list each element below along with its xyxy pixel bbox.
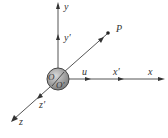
z-label: z bbox=[18, 116, 23, 127]
y-prime-label: y′ bbox=[63, 32, 71, 43]
point-p-dot-icon bbox=[106, 31, 110, 35]
x-label: x bbox=[147, 66, 153, 77]
origin-disk: O O′ bbox=[47, 68, 69, 90]
origin-label: O bbox=[48, 72, 55, 82]
position-arrow-icon bbox=[98, 37, 104, 43]
z-prime-label: z′ bbox=[38, 99, 46, 110]
point-p-label: P bbox=[115, 23, 122, 34]
reference-frames-diagram: y y′ u x′ x z′ z P O O′ bbox=[0, 0, 168, 138]
y-axis: y y′ bbox=[56, 1, 71, 68]
y-arrowhead-icon bbox=[56, 2, 60, 9]
y-prime-arrow-icon bbox=[56, 34, 60, 40]
u-arrow-icon bbox=[85, 77, 91, 81]
origin-prime-label: O′ bbox=[56, 80, 65, 90]
position-vector: P bbox=[64, 23, 122, 72]
x-axis: u x′ x bbox=[69, 66, 165, 81]
x-prime-label: x′ bbox=[112, 66, 120, 77]
x-arrowhead-icon bbox=[158, 77, 165, 81]
x-prime-arrow-icon bbox=[118, 77, 124, 81]
y-label: y bbox=[63, 1, 69, 12]
z-axis: z′ z bbox=[11, 87, 50, 127]
velocity-label: u bbox=[82, 66, 87, 77]
